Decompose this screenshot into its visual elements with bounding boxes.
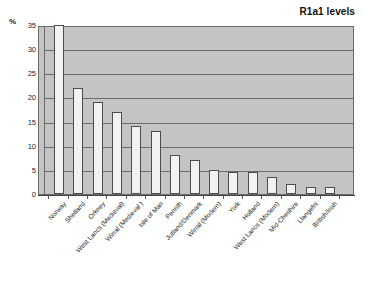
y-tick-label: 5 bbox=[14, 167, 36, 175]
x-tick-mark bbox=[68, 196, 69, 199]
x-tick-mark bbox=[106, 196, 107, 199]
bar-chart: % R1a1 levels 35302520151050 NorwayShetl… bbox=[0, 0, 367, 293]
y-tick-label: 15 bbox=[14, 119, 36, 127]
x-tick-label: Shetland bbox=[64, 200, 87, 224]
bar bbox=[73, 88, 83, 194]
y-tick-label: 20 bbox=[14, 94, 36, 102]
x-axis-line bbox=[38, 195, 355, 196]
bar bbox=[151, 131, 161, 194]
y-tick-label: 0 bbox=[14, 191, 36, 199]
bar bbox=[131, 126, 141, 194]
x-tick-mark bbox=[339, 196, 340, 199]
chart-title: R1a1 levels bbox=[299, 6, 355, 17]
bar bbox=[112, 112, 122, 194]
bar bbox=[248, 172, 258, 194]
bar bbox=[228, 172, 238, 194]
x-tick-mark bbox=[281, 196, 282, 199]
bar bbox=[190, 160, 200, 194]
x-tick-mark bbox=[320, 196, 321, 199]
x-tick-mark bbox=[203, 196, 204, 199]
y-tick-label: 30 bbox=[14, 46, 36, 54]
plot-area bbox=[44, 26, 354, 195]
bar bbox=[54, 25, 64, 194]
x-tick-mark bbox=[48, 196, 49, 199]
bar bbox=[209, 170, 219, 194]
bar bbox=[286, 184, 296, 194]
bar-series bbox=[45, 27, 353, 194]
x-tick-mark bbox=[300, 196, 301, 199]
x-tick-mark bbox=[261, 196, 262, 199]
bar bbox=[306, 187, 316, 194]
bar bbox=[267, 177, 277, 194]
x-tick-mark bbox=[126, 196, 127, 199]
x-tick-mark bbox=[184, 196, 185, 199]
y-tick-label: 35 bbox=[14, 22, 36, 30]
x-tick-mark bbox=[145, 196, 146, 199]
bar bbox=[170, 155, 180, 194]
x-tick-mark bbox=[223, 196, 224, 199]
bar bbox=[325, 187, 335, 194]
x-tick-label: York bbox=[227, 200, 241, 214]
bar bbox=[93, 102, 103, 194]
x-tick-mark bbox=[87, 196, 88, 199]
y-tick-label: 25 bbox=[14, 70, 36, 78]
x-tick-mark bbox=[242, 196, 243, 199]
x-tick-mark bbox=[165, 196, 166, 199]
y-tick-label: 10 bbox=[14, 143, 36, 151]
